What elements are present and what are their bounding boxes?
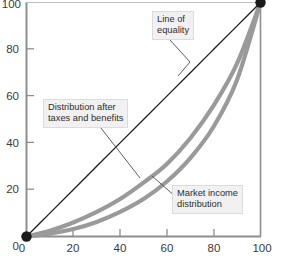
callout-after-tax-line2: taxes and benefits [48,113,123,124]
callout-market-line2: distribution [177,199,238,210]
callout-market-income-distribution: Market income distribution [172,185,243,214]
callout-after-tax-line1: Distribution after [48,102,123,113]
y-tick-label-60: 60 [6,90,19,102]
x-tick-label-20: 20 [67,242,80,254]
callout-distribution-after-taxes-and-benefits: Distribution after taxes and benefits [43,99,128,128]
callout-line-of-equality: Line of equality [152,11,194,40]
x-tick-label-80: 80 [208,242,221,254]
x-ticks-group [73,229,214,236]
y-tick-label-80: 80 [6,43,19,55]
y-tick-label-20: 20 [6,183,19,195]
lorenz-curve-chart: 0 20 40 60 80 100 0 20 40 60 80 100 [0,0,287,256]
callout-market-line1: Market income [177,188,238,199]
x-tick-label-60: 60 [161,242,174,254]
x-tick-label-0: 0 [19,242,25,254]
callout-equality-line1: Line of [157,14,189,25]
y-ticks-group [27,49,34,189]
leader-line-after-tax [97,123,140,178]
x-tick-label-100: 100 [252,242,271,254]
y-tick-labels: 0 20 40 60 80 100 [2,0,21,252]
y-tick-label-100: 100 [2,0,21,10]
leader-line-equality [170,40,190,76]
x-tick-label-40: 40 [114,242,127,254]
callout-equality-line2: equality [157,25,189,36]
x-tick-labels: 0 20 40 60 80 100 [19,242,272,254]
y-tick-label-40: 40 [6,137,19,149]
endpoint-marker-origin [21,231,31,241]
